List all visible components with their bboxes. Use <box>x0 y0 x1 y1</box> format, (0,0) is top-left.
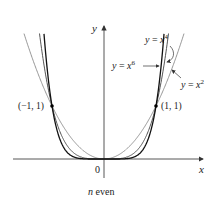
y-axis-label: y <box>91 22 97 34</box>
arrow-x4 <box>167 46 174 62</box>
label-point-1-1: (1, 1) <box>161 101 182 112</box>
label-x4: y = x4 <box>144 33 169 45</box>
label-x2: y = x2 <box>180 78 205 90</box>
arrow-x2 <box>172 70 181 78</box>
point-neg1-1 <box>50 104 54 108</box>
power-functions-plot: y x 0 (−1, 1) (1, 1) y = x4 y = x6 y = x… <box>0 0 222 209</box>
label-point-neg1-1: (−1, 1) <box>18 101 44 112</box>
x-axis-label: x <box>198 163 204 175</box>
point-1-1 <box>154 104 158 108</box>
origin-label: 0 <box>95 164 100 175</box>
caption: n even <box>88 186 114 197</box>
label-x6: y = x6 <box>111 59 136 71</box>
